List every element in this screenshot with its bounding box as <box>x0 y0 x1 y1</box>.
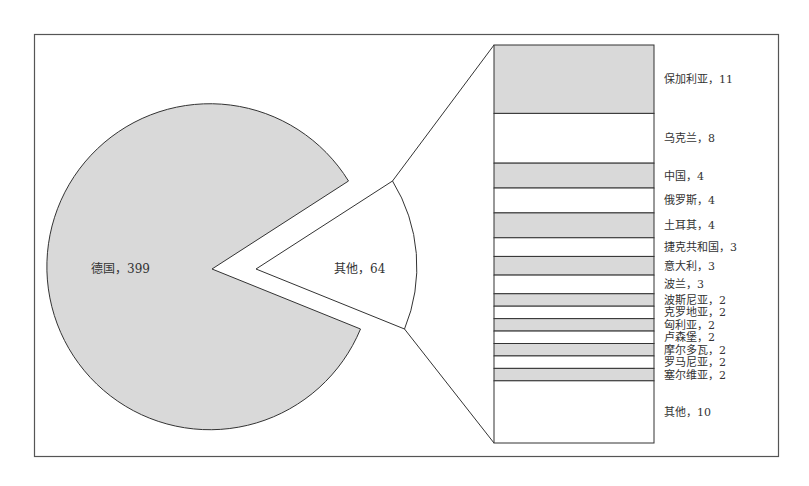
bar-segment <box>494 113 654 163</box>
bar-segment <box>494 238 654 257</box>
bar-segment <box>494 163 654 188</box>
bar-segment <box>494 368 654 380</box>
bar-segment-label: 罗马尼亚，2 <box>664 356 726 369</box>
pie-label-germany: 德国，399 <box>91 261 150 276</box>
bar-segment <box>494 306 654 318</box>
bar-segment <box>494 294 654 306</box>
bar-segment-label: 意大利，3 <box>664 259 715 273</box>
pie-label-other: 其他，64 <box>334 262 386 276</box>
bar-segment-label: 塞尔维亚，2 <box>664 368 726 382</box>
bar-segment-label: 中国，4 <box>664 170 704 183</box>
bar-segment-label: 乌克兰，8 <box>664 131 715 145</box>
bar-segment <box>494 344 654 356</box>
bar-segment <box>494 356 654 368</box>
bar-segment-label: 土耳其，4 <box>664 219 715 232</box>
bar-segment <box>494 381 654 443</box>
bar-segment-label: 克罗地亚，2 <box>664 306 726 319</box>
bar-segment-label: 保加利亚，11 <box>664 72 733 86</box>
bar-segment <box>494 319 654 331</box>
bar-segment-label: 波兰，3 <box>664 278 704 291</box>
bar-of-pie-chart: 保加利亚，11乌克兰，8中国，4俄罗斯，4土耳其，4捷克共和国，3意大利，3波兰… <box>0 0 809 486</box>
bar-segment <box>494 45 654 113</box>
bar-segment <box>494 275 654 294</box>
bar-segment <box>494 331 654 343</box>
bar-segment <box>494 188 654 213</box>
bar-segment-label: 其他，10 <box>664 406 711 419</box>
bar-segment-label: 匈利亚，2 <box>664 318 715 332</box>
bar-segment <box>494 213 654 238</box>
bar-segment-label: 捷克共和国，3 <box>664 240 737 254</box>
bar-segment-label: 俄罗斯，4 <box>664 194 715 207</box>
bar-segment-label: 摩尔多瓦，2 <box>664 343 726 357</box>
bar-breakdown <box>494 45 654 443</box>
bar-segment <box>494 256 654 275</box>
bar-segment-label: 卢森堡，2 <box>664 330 715 344</box>
bar-segment-label: 波斯尼亚，2 <box>664 294 726 307</box>
